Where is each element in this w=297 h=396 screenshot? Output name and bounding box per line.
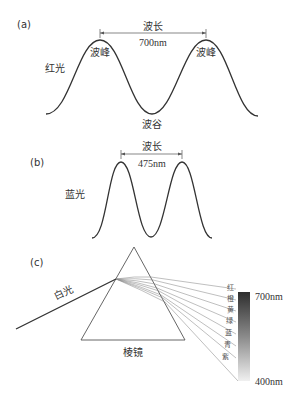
light-name-b: 蓝光	[65, 188, 85, 200]
wavelength-label-b: 波长	[142, 140, 162, 152]
peak-label-a-1: 波峰	[90, 46, 110, 58]
peak-label-a-2: 波峰	[196, 46, 216, 58]
color-label-yellow: 黄	[227, 305, 234, 314]
blue-light-wave	[92, 162, 212, 238]
color-label-red: 红	[227, 283, 234, 292]
dispersed-rays	[116, 277, 238, 381]
wavelength-value-b: 475nm	[138, 158, 166, 169]
color-label-green: 绿	[226, 316, 233, 325]
color-label-orange: 橙	[227, 294, 234, 303]
light-name-a: 红光	[45, 62, 65, 74]
panel-a-label: (a)	[17, 19, 31, 30]
spectrum-bottom-label: 400nm	[255, 376, 283, 387]
panel-b-label: (b)	[30, 157, 44, 168]
panel-a: (a) 波长 700nm 波峰 波峰 波谷 红光	[17, 19, 258, 130]
wavelength-label-a: 波长	[143, 20, 163, 32]
white-light-label: 白光	[52, 282, 75, 302]
color-label-blue: 蓝	[225, 328, 232, 337]
light-wave-diagram: (a) 波长 700nm 波峰 波峰 波谷 红光 (b) 波长 475nm	[0, 0, 297, 396]
prism-label: 棱镜	[123, 346, 143, 358]
color-label-cyan: 青	[224, 340, 231, 349]
spectrum-gradient-bar	[238, 292, 250, 381]
panel-b: (b) 波长 475nm 蓝光	[30, 140, 212, 238]
trough-label-a: 波谷	[142, 118, 162, 130]
red-light-wave	[46, 40, 258, 116]
color-label-violet: 紫	[222, 353, 229, 361]
wavelength-value-a: 700nm	[139, 37, 167, 48]
panel-c: (c) 棱镜 白光 红 橙 黄 绿 蓝 青 紫 7	[16, 247, 283, 387]
spectrum-top-label: 700nm	[255, 291, 283, 302]
spectrum-color-labels: 红 橙 黄 绿 蓝 青 紫	[222, 283, 234, 361]
panel-c-label: (c)	[30, 257, 43, 268]
